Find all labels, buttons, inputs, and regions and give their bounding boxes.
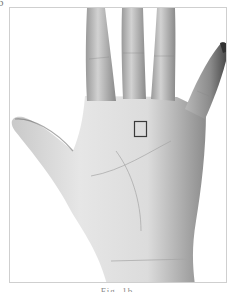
ring-finger xyxy=(151,8,175,101)
hand-image xyxy=(9,7,227,283)
panel-label: b xyxy=(0,0,4,8)
palm xyxy=(12,96,206,283)
middle-finger xyxy=(122,8,146,99)
figure-caption: Fig. 1b xyxy=(0,286,234,292)
pinky-finger xyxy=(185,43,227,119)
figure-frame xyxy=(9,7,227,283)
index-finger xyxy=(86,8,116,101)
